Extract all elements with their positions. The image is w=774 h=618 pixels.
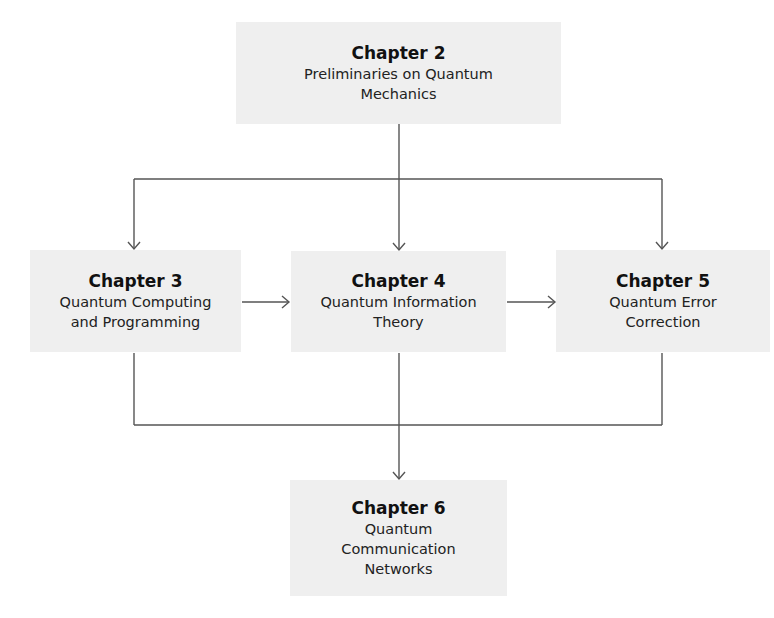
chapter-3-title: Chapter 3 xyxy=(88,271,182,292)
chapter-3-box: Chapter 3 Quantum Computing and Programm… xyxy=(30,250,241,352)
chapter-6-title: Chapter 6 xyxy=(351,498,445,519)
chapter-2-subtitle: Preliminaries on Quantum Mechanics xyxy=(304,64,493,104)
chapter-5-subtitle: Quantum Error Correction xyxy=(609,292,717,332)
arrowhead-ch5-left xyxy=(548,296,555,308)
chapter-5-box: Chapter 5 Quantum Error Correction xyxy=(556,250,770,352)
arrowhead-ch6-top xyxy=(393,472,405,479)
chapter-6-subtitle: Quantum Communication Networks xyxy=(341,519,455,579)
chapter-4-box: Chapter 4 Quantum Information Theory xyxy=(291,251,506,352)
arrowhead-ch4-left xyxy=(282,296,289,308)
chapter-5-title: Chapter 5 xyxy=(616,271,710,292)
arrowhead-ch5-top xyxy=(656,242,668,249)
chapter-3-subtitle: Quantum Computing and Programming xyxy=(60,292,212,332)
arrowhead-ch4-top xyxy=(393,243,405,250)
chapter-4-subtitle: Quantum Information Theory xyxy=(320,292,476,332)
chapter-6-box: Chapter 6 Quantum Communication Networks xyxy=(290,480,507,596)
chapter-2-box: Chapter 2 Preliminaries on Quantum Mecha… xyxy=(236,22,561,124)
arrowhead-ch3-top xyxy=(128,242,140,249)
chapter-4-title: Chapter 4 xyxy=(351,271,445,292)
chapter-2-title: Chapter 2 xyxy=(351,43,445,64)
